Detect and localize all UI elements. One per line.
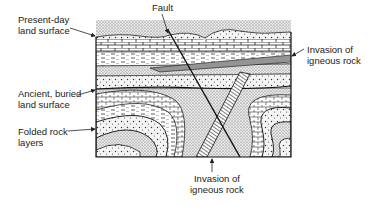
label-igneous-right: Invasion of igneous rock [307,44,361,66]
label-fault: Fault [152,2,173,13]
label-ancient-surface: Ancient, buried land surface [18,88,81,110]
label-line: Present-day [18,14,70,25]
limestone-layer [96,39,291,52]
label-line: land surface [18,25,70,36]
rock-layers [96,20,291,157]
present-surface-arrow [70,28,95,36]
label-line: igneous rock [307,55,361,66]
label-line: layers [18,137,68,148]
label-line: Invasion of [190,173,244,184]
label-folded-layers: Folded rock layers [18,126,68,148]
igneous-right-arrow [292,49,304,56]
label-present-day-surface: Present-day land surface [18,14,70,36]
label-line: Invasion of [307,44,361,55]
label-line: Ancient, buried [18,88,81,99]
label-fault-text: Fault [152,2,173,13]
label-line: Folded rock [18,126,68,137]
folded-layers-arrow [68,129,95,131]
label-line: igneous rock [190,184,244,195]
label-line: land surface [18,99,81,110]
label-igneous-bottom: Invasion of igneous rock [190,173,244,195]
